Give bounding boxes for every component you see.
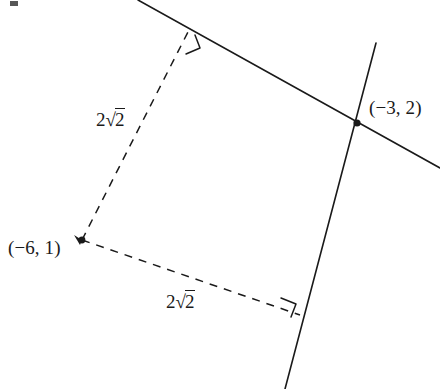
line-steep bbox=[285, 43, 376, 389]
point-marker-intersection bbox=[353, 119, 360, 126]
radical-coefficient-lower: 2 bbox=[166, 291, 176, 312]
line-shallow bbox=[138, 0, 440, 168]
ink-speck bbox=[10, 1, 18, 6]
radicand-lower: 2 bbox=[185, 290, 196, 312]
point-label-minus6-1: (−6, 1) bbox=[8, 238, 61, 257]
distance-label-lower: 2√2 bbox=[166, 292, 195, 311]
distance-label-upper: 2√2 bbox=[96, 110, 125, 129]
segment-perpendicular-upper-left bbox=[82, 32, 188, 240]
point-label-minus3-2: (−3, 2) bbox=[369, 98, 422, 117]
radicand-upper: 2 bbox=[115, 108, 126, 130]
figure-canvas bbox=[0, 0, 440, 389]
radical-expression-lower: 2√2 bbox=[166, 292, 195, 311]
radical-coefficient-upper: 2 bbox=[96, 109, 106, 130]
right-angle-top-icon bbox=[186, 35, 200, 54]
radical-expression-upper: 2√2 bbox=[96, 110, 125, 129]
geometry-figure: (−6, 1) (−3, 2) 2√2 2√2 bbox=[0, 0, 440, 389]
point-tail-external bbox=[74, 235, 82, 245]
right-angle-bottom-right-icon bbox=[281, 298, 296, 317]
